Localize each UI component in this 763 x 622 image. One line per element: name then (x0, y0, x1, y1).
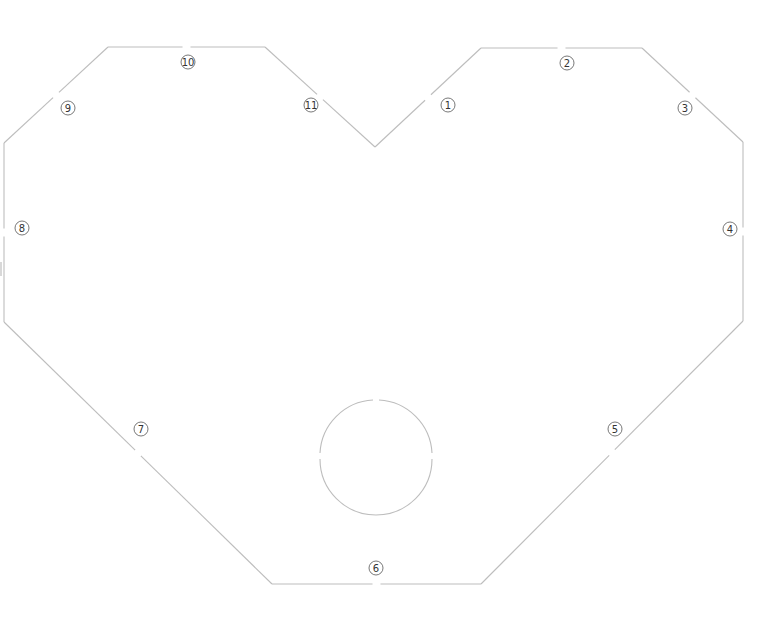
hole-arc-lower-right (320, 459, 432, 515)
edge-3-label-text: 3 (682, 103, 688, 114)
edge-9-segment-1 (4, 98, 53, 143)
edge-7-label-text: 7 (138, 424, 144, 435)
edge-9-label: 9 (61, 101, 75, 115)
edge-7-segment-1 (141, 456, 272, 584)
edge-4-label: 4 (723, 222, 737, 236)
edge-9-segment-2 (59, 47, 108, 92)
edge-10-label: 10 (181, 55, 195, 69)
edge-3-label: 3 (678, 101, 692, 115)
hole-arc-upper-right (379, 400, 432, 453)
edge-8-label-text: 8 (19, 223, 25, 234)
edge-labels: 1234567891011 (15, 55, 737, 575)
edge-1-segment-2 (431, 48, 481, 95)
edge-11-segment-2 (323, 100, 375, 147)
edge-4-label-text: 4 (727, 224, 733, 235)
outline-edges (4, 47, 743, 584)
edge-2-label: 2 (560, 56, 574, 70)
edge-7-segment-2 (4, 322, 135, 450)
edge-6-label: 6 (369, 561, 383, 575)
edge-6-label-text: 6 (373, 563, 379, 574)
edge-1-label-text: 1 (445, 100, 451, 111)
edge-2-label-text: 2 (564, 58, 570, 69)
edge-1-label: 1 (441, 98, 455, 112)
edge-5-label: 5 (608, 422, 622, 436)
edge-5-segment-2 (481, 455, 609, 584)
edge-1-segment-1 (375, 100, 425, 147)
edge-5-segment-1 (615, 321, 743, 450)
hole-arc-upper-left (320, 400, 373, 453)
heart-diagram: 1234567891011 (0, 0, 763, 622)
edge-8-label: 8 (15, 221, 29, 235)
edge-5-label-text: 5 (612, 424, 618, 435)
edge-10-label-text: 10 (182, 57, 195, 68)
edge-9-label-text: 9 (65, 103, 71, 114)
edge-11-segment-1 (265, 47, 317, 94)
left-edge-mark (0, 262, 2, 276)
edge-11-label-text: 11 (305, 100, 318, 111)
edge-3-segment-2 (695, 98, 743, 142)
edge-3-segment-1 (642, 48, 690, 92)
center-hole (320, 400, 432, 515)
edge-7-label: 7 (134, 422, 148, 436)
edge-11-label: 11 (304, 98, 318, 112)
